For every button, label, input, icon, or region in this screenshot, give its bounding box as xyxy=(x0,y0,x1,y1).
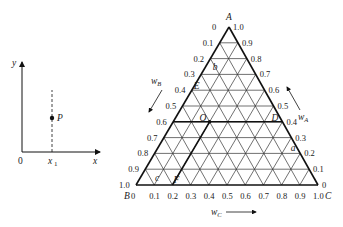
xy-plot: y x 0 x 1 P xyxy=(11,58,100,168)
point-d-label: D xyxy=(270,113,278,123)
diagram-canvas: y x 0 x 1 P 01.000.10.90.10.20.80.20.30.… xyxy=(0,0,343,227)
bottom-tick-label: 0.6 xyxy=(240,191,251,201)
bottom-tick-label: 0.3 xyxy=(186,191,197,201)
right-tick-label: 0.4 xyxy=(286,117,297,127)
point-o-label: O xyxy=(200,113,207,123)
left-tick-label: 0.1 xyxy=(203,38,214,48)
bottom-tick-label: 0.5 xyxy=(222,191,233,201)
wb-axis-label: wB xyxy=(151,76,161,87)
grid-line-wb xyxy=(201,74,263,185)
y-axis-label: y xyxy=(11,58,17,68)
grid-line-wb xyxy=(220,43,300,185)
left-tick-label: 0.2 xyxy=(193,54,204,64)
point-p-label: P xyxy=(56,113,63,123)
right-tick-label: 0.8 xyxy=(251,54,262,64)
x1-subscript: 1 xyxy=(54,160,58,168)
left-tick-label: 0.3 xyxy=(184,69,195,79)
wa-arrow xyxy=(287,87,300,110)
wa-axis-label: wA xyxy=(298,112,308,123)
point-p xyxy=(50,116,54,120)
bottom-tick-label: 0.2 xyxy=(167,191,178,201)
left-tick-label: 0.5 xyxy=(166,101,177,111)
point-f-label: F xyxy=(172,175,179,185)
left-tick-label: 0.4 xyxy=(175,85,186,95)
grid-line-wc xyxy=(300,169,309,185)
bottom-tick-label: 0.7 xyxy=(258,191,269,201)
left-tick-label: 0.6 xyxy=(156,117,167,127)
grid-line-wc xyxy=(191,74,256,185)
left-tick-label: 0.9 xyxy=(128,164,139,174)
bottom-tick-label: 0.4 xyxy=(204,191,215,201)
vertex-a-label: A xyxy=(225,12,232,22)
right-tick-label: 0.9 xyxy=(242,38,253,48)
wb-arrow xyxy=(149,90,162,112)
bottom-tick-label: 1.0 xyxy=(313,191,324,201)
vertex-c-label: C xyxy=(325,191,332,201)
bottom-tick-label: 0 xyxy=(131,191,135,201)
point-c-label: c xyxy=(155,173,160,183)
point-e-label: E xyxy=(193,81,200,91)
point-a-label: a xyxy=(291,143,296,153)
wc-axis-label: wC xyxy=(211,207,222,218)
right-tick-label: 0.6 xyxy=(269,85,280,95)
right-tick-label: 0.1 xyxy=(313,164,324,174)
x-axis-label: x xyxy=(92,156,98,166)
grid-line-wc xyxy=(227,106,274,185)
point-o xyxy=(208,120,212,124)
right-tick-label: 1.0 xyxy=(233,22,244,32)
x1-label: x xyxy=(47,156,53,166)
right-tick-label: 0.3 xyxy=(295,133,306,143)
left-tick-label: 0.8 xyxy=(138,148,149,158)
left-tick-label: 0 xyxy=(212,22,216,32)
bottom-tick-label: 0.9 xyxy=(295,191,306,201)
right-tick-label: 0.5 xyxy=(278,101,289,111)
grid-line-wc xyxy=(154,43,238,185)
ternary-diagram: 01.000.10.90.10.20.80.20.30.70.30.40.60.… xyxy=(119,22,326,201)
origin-label: 0 xyxy=(18,156,23,166)
bottom-tick-label: 0.1 xyxy=(149,191,160,201)
vertex-b-label: B xyxy=(124,191,130,201)
grid-line-wb xyxy=(145,169,154,185)
left-tick-label: 1.0 xyxy=(119,180,130,190)
right-tick-label: 0.7 xyxy=(260,69,271,79)
left-tick-label: 0.7 xyxy=(147,133,158,143)
right-tick-label: 0.2 xyxy=(304,148,315,158)
bottom-tick-label: 0.8 xyxy=(277,191,288,201)
right-tick-label: 0 xyxy=(322,180,326,190)
point-b-label: b xyxy=(213,62,218,72)
